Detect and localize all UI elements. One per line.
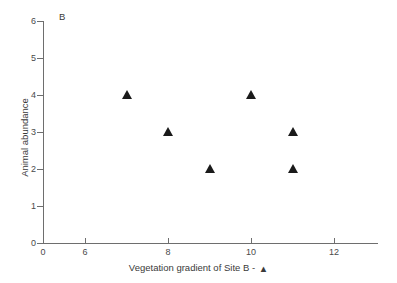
data-point-triangle xyxy=(122,90,132,99)
y-tick-mark xyxy=(37,58,43,59)
data-point-triangle xyxy=(163,127,173,136)
x-tick-label: 8 xyxy=(165,247,170,257)
y-tick-label: 3 xyxy=(31,127,36,137)
y-tick-mark xyxy=(37,206,43,207)
x-tick-label: 6 xyxy=(82,247,87,257)
x-tick-label: 0 xyxy=(40,247,45,257)
x-axis-line xyxy=(43,243,378,244)
y-axis-title: Animal abundance xyxy=(19,73,30,203)
x-tick-label: 12 xyxy=(329,247,339,257)
y-tick-label: 1 xyxy=(31,201,36,211)
x-tick-mark xyxy=(43,238,44,244)
x-tick-mark xyxy=(168,238,169,244)
x-axis-title-text: Vegetation gradient of Site B - xyxy=(129,262,255,273)
data-markers-layer xyxy=(0,0,397,283)
data-point-triangle xyxy=(246,90,256,99)
y-tick-label: 5 xyxy=(31,53,36,63)
y-axis-line xyxy=(43,21,44,244)
data-point-triangle xyxy=(205,164,215,173)
y-tick-label: 2 xyxy=(31,164,36,174)
y-tick-mark xyxy=(37,95,43,96)
y-tick-mark xyxy=(37,169,43,170)
y-tick-mark xyxy=(37,21,43,22)
y-tick-mark xyxy=(37,132,43,133)
data-point-triangle xyxy=(288,164,298,173)
panel-label: B xyxy=(59,11,65,22)
x-tick-label: 10 xyxy=(246,247,256,257)
x-axis-title: Vegetation gradient of Site B - ▲ xyxy=(0,262,397,274)
data-point-triangle xyxy=(288,127,298,136)
y-tick-label: 6 xyxy=(31,16,36,26)
triangle-marker-icon: ▲ xyxy=(259,263,268,274)
x-tick-mark xyxy=(251,238,252,244)
y-tick-label: 4 xyxy=(31,90,36,100)
y-tick-label: 0 xyxy=(31,238,36,248)
x-tick-mark xyxy=(334,238,335,244)
scatter-plot-figure: B 0123456 0681012 Animal abundance Veget… xyxy=(0,0,397,283)
x-tick-mark xyxy=(85,238,86,244)
